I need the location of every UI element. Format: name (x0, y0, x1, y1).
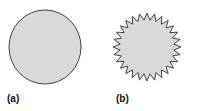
spiky-star-shape (113, 13, 181, 81)
panel-label-a: (a) (7, 93, 19, 104)
figure-canvas (0, 0, 201, 111)
panel-label-b: (b) (116, 93, 129, 104)
smooth-circle-shape (9, 10, 81, 84)
